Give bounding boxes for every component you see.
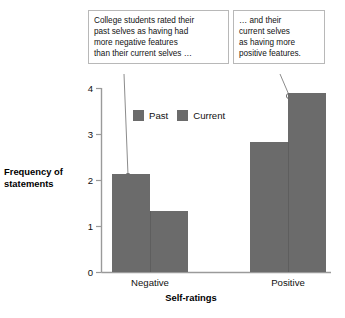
legend-item-current: Current [177,110,225,121]
legend-item-past: Past [133,110,168,121]
x-category-label-negative: Negative [105,277,195,288]
chart-legend: Past Current [133,110,225,121]
y-axis-title: Frequency of statements [4,166,88,190]
bar-pair-separators [0,0,345,318]
legend-label-current: Current [193,110,225,121]
square-swatch-icon [177,110,188,121]
square-swatch-icon [133,110,144,121]
x-category-label-positive: Positive [243,277,333,288]
legend-label-past: Past [149,110,168,121]
x-axis-title: Self-ratings [131,292,251,303]
bar-chart-figure: College students rated their past selves… [0,0,345,318]
